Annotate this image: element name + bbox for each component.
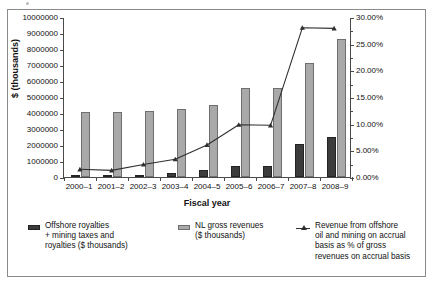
y-tick-right	[350, 98, 354, 99]
y-tick-left	[60, 98, 64, 99]
y-tick-right	[350, 45, 354, 46]
x-tick	[160, 177, 161, 181]
y-tick-label-left: 9000000	[27, 30, 58, 38]
scan-artifact	[26, 2, 29, 5]
x-tick	[288, 177, 289, 181]
y-tick-right-minor	[350, 85, 353, 86]
x-tick-label: 2000–1	[66, 182, 93, 191]
y-tick-right-minor	[350, 31, 353, 32]
y-tick-right-minor	[350, 138, 353, 139]
line-marker-triangle	[300, 25, 305, 30]
legend-label: Offshore royalties + mining taxes and ro…	[45, 221, 128, 252]
x-tick	[96, 177, 97, 181]
y-tick-right	[350, 125, 354, 126]
y-tick-left	[60, 50, 64, 51]
x-tick	[352, 177, 353, 181]
bar-offshore-royalties	[71, 175, 80, 177]
bar-nl-gross-revenues	[177, 109, 186, 177]
bar-nl-gross-revenues	[209, 105, 218, 177]
bar-offshore-royalties	[231, 166, 240, 177]
x-tick	[192, 177, 193, 181]
y-tick-right-minor	[350, 111, 353, 112]
bar-nl-gross-revenues	[145, 111, 154, 177]
y-tick-right	[350, 71, 354, 72]
y-tick-label-left: 8000000	[27, 46, 58, 54]
y-axis-title: $ (thousands)	[10, 39, 20, 98]
legend-item-nl-gross-revenues: NL gross revenues ($ thousands)	[178, 221, 288, 241]
bar-nl-gross-revenues	[113, 112, 122, 177]
bar-offshore-royalties	[327, 137, 336, 177]
bar-nl-gross-revenues	[337, 39, 346, 177]
y-tick-label-right: 30.00%	[356, 14, 383, 22]
legend-item-revenue-percent: Revenue from offshore oil and mining on …	[296, 221, 426, 262]
x-tick-label: 2003–4	[162, 182, 189, 191]
x-tick-label: 2004–5	[194, 182, 221, 191]
dark-square-icon	[28, 225, 40, 230]
y-tick-label-left: 5000000	[27, 94, 58, 102]
y-tick-label-right: 5.00%	[356, 147, 379, 155]
x-tick	[320, 177, 321, 181]
x-tick-label: 2005–6	[226, 182, 253, 191]
y-tick-label-left: 0	[54, 174, 58, 182]
chart-legend: Offshore royalties + mining taxes and ro…	[28, 221, 418, 273]
bar-offshore-royalties	[295, 144, 304, 177]
y-tick-label-left: 3000000	[27, 126, 58, 134]
y-tick-right-minor	[350, 165, 353, 166]
y-tick-right	[350, 151, 354, 152]
line-triangle-icon	[296, 225, 310, 233]
y-tick-label-right: 20.00%	[356, 67, 383, 75]
y-tick-left	[60, 146, 64, 147]
y-tick-label-left: 10000000	[22, 14, 58, 22]
x-tick	[128, 177, 129, 181]
x-tick	[64, 177, 65, 181]
bar-offshore-royalties	[103, 175, 112, 177]
x-tick-label: 2007–8	[290, 182, 317, 191]
y-tick-right-minor	[350, 58, 353, 59]
y-tick-label-right: 10.00%	[356, 121, 383, 129]
y-tick-left	[60, 66, 64, 67]
y-tick-left	[60, 82, 64, 83]
y-tick-left	[60, 34, 64, 35]
bar-nl-gross-revenues	[305, 63, 314, 177]
legend-label: NL gross revenues ($ thousands)	[195, 221, 263, 241]
y-tick-label-right: 15.00%	[356, 94, 383, 102]
bar-nl-gross-revenues	[273, 88, 282, 177]
x-tick-label: 2002–3	[130, 182, 157, 191]
legend-item-offshore-royalties: Offshore royalties + mining taxes and ro…	[28, 221, 158, 252]
y-tick-left	[60, 162, 64, 163]
bar-offshore-royalties	[199, 170, 208, 177]
x-tick-label: 2001–2	[98, 182, 125, 191]
x-tick-label: 2008–9	[322, 182, 349, 191]
y-tick-label-right: 25.00%	[356, 41, 383, 49]
y-tick-left	[60, 18, 64, 19]
x-tick	[224, 177, 225, 181]
plot-area: 0100000020000003000000400000050000006000…	[63, 18, 351, 178]
bar-nl-gross-revenues	[81, 112, 90, 177]
line-marker-triangle	[332, 26, 337, 31]
bar-offshore-royalties	[135, 175, 144, 177]
y-tick-left	[60, 114, 64, 115]
light-square-icon	[178, 225, 190, 230]
chart-figure: $ (thousands) Fiscal year 01000000200000…	[0, 0, 434, 288]
y-tick-label-left: 6000000	[27, 78, 58, 86]
x-tick	[256, 177, 257, 181]
x-axis-title: Fiscal year	[63, 198, 351, 208]
y-tick-label-left: 4000000	[27, 110, 58, 118]
bar-offshore-royalties	[167, 173, 176, 177]
bar-nl-gross-revenues	[241, 88, 250, 177]
legend-label: Revenue from offshore oil and mining on …	[315, 221, 410, 262]
y-tick-label-left: 7000000	[27, 62, 58, 70]
y-tick-right	[350, 18, 354, 19]
y-tick-left	[60, 130, 64, 131]
y-tick-label-right: 0.00%	[356, 174, 379, 182]
y-tick-label-left: 2000000	[27, 142, 58, 150]
x-tick-label: 2006–7	[258, 182, 285, 191]
y-tick-label-left: 1000000	[27, 158, 58, 166]
bar-offshore-royalties	[263, 166, 272, 177]
